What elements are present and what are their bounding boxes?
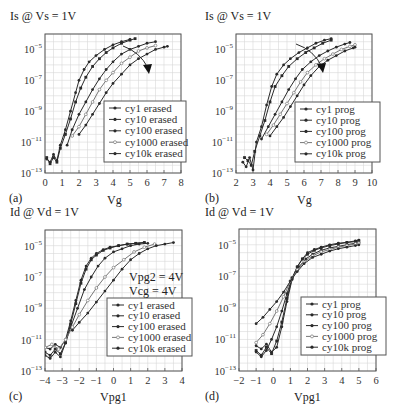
y-tick-label: 10−5 [218,238,236,251]
y-tick-label: 10−11 [212,135,234,148]
x-tick-label: 2 [76,177,81,188]
legend-item: cy10 prog [316,114,361,126]
x-tick-label: 1 [128,375,133,386]
y-tick-label: 10−9 [24,301,42,314]
x-tick-label: 7 [161,177,166,188]
x-tick-label: 2 [233,177,238,188]
y-tick-label: 10−11 [21,333,43,346]
x-tick-label: 3 [250,177,255,188]
x-tick-label: 1 [288,375,293,386]
panel-a-xlabel: Vg [107,193,122,208]
legend-item: cy10k prog [316,147,366,159]
x-tick-label: 1 [59,177,64,188]
chart-panel-b: 234567891010−510−710−910−1110−13cy1 prog… [212,34,380,188]
panel-b-xlabel: Vg [297,193,312,208]
legend: cy1 erasedcy10 erasedcy100 erasedcy1000 … [104,101,189,162]
x-tick-label: 3 [322,375,327,386]
x-tick-label: 5 [284,177,289,188]
panel-a-title: Is @ Vs = 1V [10,9,76,24]
x-tick-label: 6 [301,177,306,188]
legend-item: cy100 prog [316,125,366,137]
y-tick-label: 10−9 [218,301,236,314]
legend-item: cy1000 prog [316,136,372,148]
x-tick-label: −2 [74,375,85,386]
y-tick-label: 10−13 [212,166,234,179]
panel-b-letter: (b) [205,191,219,206]
panel-b-title: Is @ Vs = 1V [205,9,271,24]
legend-item: cy1000 erased [125,136,189,148]
x-tick-label: 2 [305,375,310,386]
x-tick-label: −4 [39,375,51,386]
y-tick-label: 10−9 [215,104,233,117]
x-tick-label: 8 [335,177,340,188]
chart-panel-c: −4−3−2−10123410−510−710−910−1110−13cy1 e… [21,230,192,386]
x-tick-label: 0 [271,375,276,386]
x-tick-label: 10 [367,177,378,188]
chart-panel-d: −2−1012345610−510−710−910−1110−13cy1 pro… [215,229,386,386]
x-tick-label: 4 [267,177,273,188]
chart-panel-a: 01234567810−510−710−910−1110−13cy1 erase… [21,34,189,188]
legend-item: cy10k prog [322,341,372,353]
panel-c-letter: (c) [9,389,22,404]
x-tick-label: 3 [162,375,167,386]
x-tick-label: 3 [93,177,98,188]
y-tick-label: 10−7 [24,270,42,283]
panel-d-letter: (d) [205,389,219,404]
y-tick-label: 10−7 [218,269,236,282]
y-tick-label: 10−5 [215,42,233,55]
panel-a-letter: (a) [9,191,22,206]
x-tick-label: 0 [42,177,47,188]
panel-c-xlabel: Vpg1 [100,390,127,405]
x-tick-label: −2 [233,375,244,386]
x-tick-label: 4 [179,375,185,386]
legend: cy1 erasedcy10 erasedcy100 erasedcy1000 … [107,298,192,356]
y-tick-label: 10−13 [21,166,43,179]
y-tick-label: 10−11 [21,135,43,148]
panel-c-note-vpg2: Vpg2 = 4V [129,270,183,285]
panel-d-title: Id @ Vd = 1V [205,205,274,220]
x-tick-label: 6 [373,375,378,386]
x-tick-label: 2 [145,375,150,386]
x-tick-label: 6 [144,177,149,188]
x-tick-label: −1 [251,375,262,386]
y-tick-label: 10−11 [215,332,237,345]
x-tick-label: 4 [339,375,345,386]
panel-c-note-vcg: Vcg = 4V [129,284,176,299]
x-tick-label: 0 [111,375,116,386]
legend: cy1 progcy10 progcy100 progcy1000 progcy… [295,102,380,162]
y-tick-label: 10−5 [24,239,42,252]
x-tick-label: 4 [110,177,116,188]
x-tick-label: −1 [91,375,102,386]
y-tick-label: 10−7 [24,73,42,86]
y-tick-label: 10−9 [24,104,42,117]
legend-item: cy100 erased [125,124,183,136]
legend-item: cy10k erased [128,342,186,354]
x-tick-label: 5 [127,177,132,188]
x-tick-label: 8 [178,177,183,188]
y-tick-label: 10−7 [215,73,233,86]
legend-item: cy1 prog [316,103,355,115]
panel-c-title: Id @ Vd = 1V [10,205,79,220]
legend-item: cy10 erased [125,113,178,125]
legend-item: cy10k erased [125,147,183,159]
x-tick-label: 9 [352,177,357,188]
x-tick-label: −3 [57,375,68,386]
x-tick-label: 5 [356,375,361,386]
x-tick-label: 7 [318,177,323,188]
panel-d-xlabel: Vpg1 [294,390,321,405]
legend-item: cy1 erased [125,102,172,114]
y-tick-label: 10−5 [24,42,42,55]
legend: cy1 progcy10 progcy100 progcy1000 progcy… [301,297,386,355]
